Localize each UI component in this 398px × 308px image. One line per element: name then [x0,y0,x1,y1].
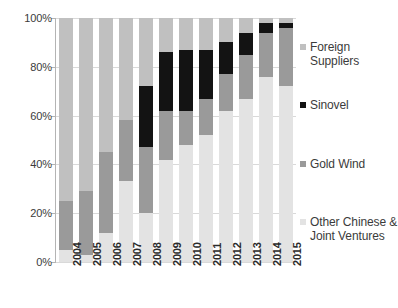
bar-segment-gold-wind-2011[interactable] [199,99,213,136]
bar-segment-gold-wind-2012[interactable] [219,74,233,111]
legend-swatch-gold-wind [300,161,306,167]
legend-item-other-chinese-joint-ventures[interactable]: Other Chinese & Joint Ventures [300,215,398,243]
bar-segment-gold-wind-2010[interactable] [179,111,193,145]
x-axis-label-2006: 2006 [111,226,123,266]
y-axis-label-80: 80% [6,62,52,73]
bar-segment-foreign-suppliers-2005[interactable] [79,18,93,191]
bar-segment-foreign-suppliers-2014[interactable] [259,18,273,23]
bar-segment-foreign-suppliers-2015[interactable] [279,18,293,23]
y-axis-label-0: 0% [6,257,52,268]
legend-swatch-sinovel [300,102,306,108]
bar-segment-gold-wind-2006[interactable] [99,152,113,233]
bar-segment-foreign-suppliers-2006[interactable] [99,18,113,152]
x-axis-label-2009: 2009 [171,226,183,266]
x-axis-label-2008: 2008 [151,226,163,266]
bar-segment-foreign-suppliers-2007[interactable] [119,18,133,120]
legend-item-gold-wind[interactable]: Gold Wind [300,157,365,171]
legend-label-sinovel: Sinovel [310,98,349,112]
bar-segment-foreign-suppliers-2009[interactable] [159,18,173,52]
x-axis-label-2007: 2007 [131,226,143,266]
stacked-bar-chart: 100% 80% 60% 40% 20% 0% 2004200520062007… [0,0,398,308]
chart-legend: Foreign Suppliers Sinovel Gold Wind Othe… [300,0,398,308]
bar-segment-foreign-suppliers-2004[interactable] [59,18,73,201]
bar-segment-sinovel-2009[interactable] [159,52,173,111]
x-axis-label-2013: 2013 [251,226,263,266]
bar-segment-sinovel-2015[interactable] [279,23,293,28]
legend-swatch-other-chinese-joint-ventures [300,219,306,225]
legend-item-foreign-suppliers[interactable]: Foreign Suppliers [300,40,398,68]
y-axis-label-60: 60% [6,111,52,122]
y-axis-label-20: 20% [6,208,52,219]
bar-segment-foreign-suppliers-2008[interactable] [139,18,153,86]
bar-segment-gold-wind-2013[interactable] [239,55,253,99]
x-axis-label-2010: 2010 [191,226,203,266]
legend-item-sinovel[interactable]: Sinovel [300,98,349,112]
bar-segment-sinovel-2010[interactable] [179,50,193,111]
bar-segment-foreign-suppliers-2013[interactable] [239,18,253,33]
legend-label-gold-wind: Gold Wind [310,157,365,171]
legend-swatch-foreign-suppliers [300,44,306,50]
bar-segment-gold-wind-2014[interactable] [259,33,273,77]
bar-segment-gold-wind-2008[interactable] [139,147,153,213]
y-axis-label-100: 100% [6,13,52,24]
x-axis-label-2004: 2004 [71,226,83,266]
bar-segment-foreign-suppliers-2011[interactable] [199,18,213,50]
legend-label-other-chinese-joint-ventures: Other Chinese & Joint Ventures [310,215,398,243]
bar-segment-sinovel-2011[interactable] [199,50,213,99]
bar-segment-sinovel-2012[interactable] [219,42,233,74]
bar-segment-foreign-suppliers-2012[interactable] [219,18,233,42]
legend-label-foreign-suppliers: Foreign Suppliers [310,40,398,68]
bar-segment-gold-wind-2007[interactable] [119,120,133,181]
bar-segment-gold-wind-2009[interactable] [159,111,173,160]
y-axis-line [55,18,56,263]
y-axis-label-40: 40% [6,159,52,170]
bar-segment-gold-wind-2015[interactable] [279,28,293,87]
x-axis-label-2005: 2005 [91,226,103,266]
x-axis-label-2011: 2011 [211,226,223,266]
x-axis-label-2014: 2014 [271,226,283,266]
bar-segment-sinovel-2014[interactable] [259,23,273,33]
bar-segment-foreign-suppliers-2010[interactable] [179,18,193,50]
bar-segment-sinovel-2008[interactable] [139,86,153,147]
bar-segment-sinovel-2013[interactable] [239,33,253,55]
x-axis-label-2012: 2012 [231,226,243,266]
